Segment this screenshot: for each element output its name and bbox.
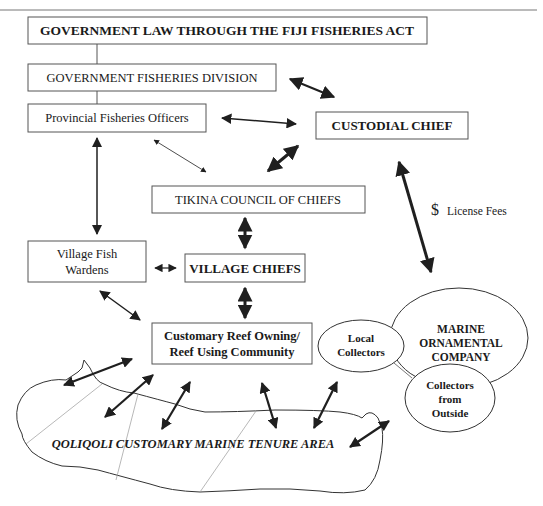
- reef-community-label-line1: Customary Reef Owning/: [164, 329, 301, 343]
- outside-collectors-label-line3: Outside: [432, 407, 469, 419]
- outside-collectors-label-line2: from: [438, 393, 461, 405]
- village-chiefs-label: VILLAGE CHIEFS: [189, 261, 301, 276]
- arrow-custodial-tikina: [268, 146, 298, 171]
- provincial-officers-label: Provincial Fisheries Officers: [45, 111, 189, 125]
- arrow-provincial-custodial: [222, 118, 296, 124]
- tenure-divider-1: [26, 384, 102, 444]
- marine-company-label-line3: COMPANY: [431, 351, 491, 363]
- fish-wardens-label-line1: Village Fish: [57, 247, 118, 261]
- arrow-provincial-tikina: [154, 140, 206, 172]
- governance-diagram: GOVERNMENT LAW THROUGH THE FIJI FISHERIE…: [0, 0, 543, 506]
- arrow-wardens-community: [100, 291, 140, 320]
- fisheries-division-label: GOVERNMENT FISHERIES DIVISION: [47, 71, 258, 85]
- arrow-area-community-4: [262, 383, 276, 428]
- local-collectors-label-line1: Local: [348, 332, 374, 344]
- local-collectors-label-line2: Collectors: [337, 346, 385, 358]
- fish-wardens-label-line2: Wardens: [65, 263, 109, 277]
- arrow-area-localcollectors: [314, 382, 337, 428]
- license-fees-dollar-icon: $: [431, 201, 439, 218]
- fisheries-act-label: GOVERNMENT LAW THROUGH THE FIJI FISHERIE…: [40, 23, 414, 38]
- reef-community-label-line2: Reef Using Community: [170, 345, 296, 359]
- tenure-area-outline: [17, 360, 383, 493]
- license-fees-label: License Fees: [447, 205, 507, 217]
- arrow-division-custodial: [290, 79, 334, 97]
- outside-collectors-label-line1: Collectors: [426, 379, 474, 391]
- diagram-canvas: GOVERNMENT LAW THROUGH THE FIJI FISHERIE…: [0, 0, 543, 506]
- arrow-custodial-company: [399, 162, 431, 272]
- tenure-area-label: QOLIQOLI CUSTOMARY MARINE TENURE AREA: [52, 437, 335, 451]
- arrow-area-community-3: [162, 382, 190, 429]
- tenure-divider-3: [200, 411, 256, 492]
- tikina-council-label: TIKINA COUNCIL OF CHIEFS: [175, 193, 341, 207]
- arrow-area-outsidecollectors: [350, 421, 389, 447]
- marine-company-label-line2: ORNAMENTAL: [419, 337, 503, 349]
- marine-company-label-line1: MARINE: [437, 323, 485, 335]
- custodial-chief-label: CUSTODIAL CHIEF: [332, 118, 453, 133]
